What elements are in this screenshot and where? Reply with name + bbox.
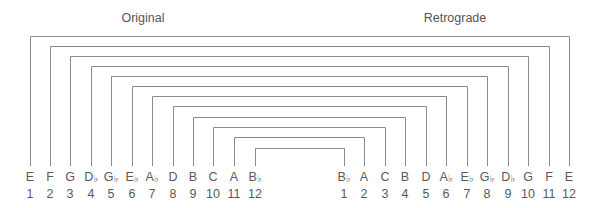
flat-icon: ♭ — [257, 173, 262, 184]
retrograde-order-number-10: 10 — [521, 187, 535, 201]
retrograde-note-2: A — [360, 170, 368, 184]
pitch-letter: B — [189, 170, 197, 184]
original-note-1: E — [26, 170, 34, 184]
flat-icon: ♭ — [490, 173, 495, 184]
retrograde-note-4: B — [401, 170, 409, 184]
retrograde-order-number-2: 2 — [361, 187, 368, 201]
bracket-3 — [71, 57, 529, 167]
original-note-8: D — [168, 170, 177, 184]
retrograde-order-number-4: 4 — [402, 187, 409, 201]
retrograde-order-number-11: 11 — [543, 187, 556, 201]
bracket-12 — [256, 149, 345, 167]
pitch-letter: D — [501, 170, 510, 184]
retrograde-note-9: D♭ — [501, 170, 515, 185]
original-note-6: E♭ — [125, 170, 138, 185]
retrograde-note-7: E♭ — [460, 170, 473, 185]
original-note-5: G♭ — [104, 170, 118, 185]
retrograde-order-number-8: 8 — [484, 187, 491, 201]
retrograde-note-8: G♭ — [480, 170, 494, 185]
original-order-number-11: 11 — [228, 187, 241, 201]
retrograde-order-number-3: 3 — [382, 187, 389, 201]
original-order-number-4: 4 — [88, 187, 95, 201]
pitch-letter: F — [46, 170, 54, 184]
original-order-number-10: 10 — [206, 187, 220, 201]
retrograde-note-6: A♭ — [439, 170, 452, 185]
flat-icon: ♭ — [134, 173, 139, 184]
pitch-letter: D — [421, 170, 430, 184]
bracket-4 — [92, 67, 509, 167]
retrograde-note-5: D — [421, 170, 430, 184]
bracket-6 — [133, 87, 468, 167]
original-note-4: D♭ — [84, 170, 98, 185]
pitch-letter: G — [65, 170, 75, 184]
original-note-9: B — [189, 170, 197, 184]
pitch-letter: A — [360, 170, 368, 184]
retrograde-order-number-12: 12 — [562, 187, 576, 201]
retrograde-note-10: G — [523, 170, 533, 184]
flat-icon: ♭ — [510, 173, 515, 184]
pitch-letter: C — [380, 170, 389, 184]
pitch-letter: G — [523, 170, 533, 184]
bracket-8 — [174, 107, 427, 167]
title-original: Original — [121, 11, 164, 25]
pitch-letter: A — [230, 170, 238, 184]
retrograde-order-number-6: 6 — [443, 187, 450, 201]
original-order-number-5: 5 — [108, 187, 115, 201]
pitch-letter: B — [401, 170, 409, 184]
retrograde-note-11: F — [545, 170, 553, 184]
bracket-5 — [112, 77, 488, 167]
original-note-2: F — [46, 170, 54, 184]
original-note-10: C — [208, 170, 217, 184]
original-order-number-8: 8 — [170, 187, 177, 201]
retrograde-note-3: C — [380, 170, 389, 184]
bracket-10 — [214, 128, 386, 167]
pitch-letter: C — [208, 170, 217, 184]
retrograde-order-number-9: 9 — [505, 187, 512, 201]
retrograde-order-number-1: 1 — [341, 187, 348, 201]
retrograde-order-number-5: 5 — [423, 187, 430, 201]
bracket-9 — [194, 118, 406, 167]
flat-icon: ♭ — [346, 173, 351, 184]
original-order-number-3: 3 — [67, 187, 74, 201]
original-order-number-1: 1 — [27, 187, 34, 201]
pitch-letter: F — [545, 170, 553, 184]
pitch-letter: G — [104, 170, 114, 184]
pitch-letter: E — [565, 170, 573, 184]
pitch-letter: E — [26, 170, 34, 184]
original-order-number-6: 6 — [129, 187, 136, 201]
flat-icon: ♭ — [114, 173, 119, 184]
retrograde-note-12: E — [565, 170, 573, 184]
original-note-11: A — [230, 170, 238, 184]
flat-icon: ♭ — [154, 173, 159, 184]
pitch-letter: G — [480, 170, 490, 184]
original-note-3: G — [65, 170, 75, 184]
flat-icon: ♭ — [448, 173, 453, 184]
retrograde-diagram: Original Retrograde E1F2G3D♭4G♭5E♭6A♭7D8… — [0, 0, 603, 208]
title-retrograde: Retrograde — [424, 11, 487, 25]
original-note-12: B♭ — [248, 170, 261, 185]
flat-icon: ♭ — [93, 173, 98, 184]
flat-icon: ♭ — [469, 173, 474, 184]
original-order-number-9: 9 — [190, 187, 197, 201]
retrograde-note-1: B♭ — [337, 170, 350, 185]
original-note-7: A♭ — [145, 170, 158, 185]
original-order-number-2: 2 — [47, 187, 54, 201]
pitch-letter: D — [168, 170, 177, 184]
pitch-letter: D — [84, 170, 93, 184]
original-order-number-7: 7 — [149, 187, 156, 201]
original-order-number-12: 12 — [248, 187, 262, 201]
retrograde-order-number-7: 7 — [464, 187, 471, 201]
